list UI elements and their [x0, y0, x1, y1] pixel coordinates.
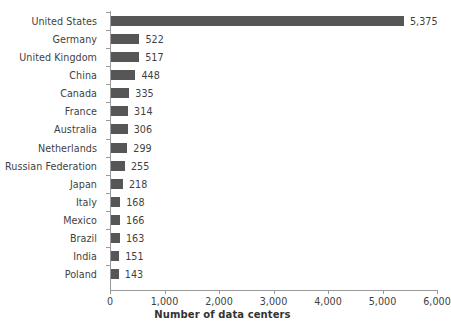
plot-area: United States5,375Germany522United Kingd…	[0, 0, 445, 300]
bar-row: China448	[0, 66, 445, 84]
category-label: Germany	[53, 33, 97, 44]
bar	[111, 215, 120, 225]
category-label: Russian Federation	[5, 160, 97, 171]
bar-value-label: 218	[129, 178, 147, 189]
x-axis-tick	[383, 290, 384, 294]
bar	[111, 251, 119, 261]
y-axis-tick	[106, 66, 110, 67]
bar	[111, 269, 119, 279]
bar	[111, 106, 128, 116]
bar-value-label: 168	[126, 196, 144, 207]
x-axis-tick	[165, 290, 166, 294]
bar	[111, 52, 139, 62]
bar-value-label: 151	[125, 251, 143, 262]
category-label: Japan	[70, 178, 97, 189]
bar	[111, 16, 404, 26]
bar	[111, 143, 127, 153]
bar-row: Netherlands299	[0, 139, 445, 157]
y-axis-tick	[106, 30, 110, 31]
bar	[111, 124, 128, 134]
bar-row: Canada335	[0, 84, 445, 102]
bar-row: Japan218	[0, 175, 445, 193]
bar-value-label: 299	[133, 142, 151, 153]
x-axis-tick	[328, 290, 329, 294]
bar	[111, 88, 129, 98]
bar-row: Russian Federation255	[0, 157, 445, 175]
y-axis-tick	[106, 84, 110, 85]
category-label: Poland	[65, 269, 97, 280]
y-axis-tick	[106, 229, 110, 230]
bar-row: Poland143	[0, 265, 445, 283]
bar-row: Italy168	[0, 193, 445, 211]
x-axis-tick	[219, 290, 220, 294]
x-axis-tick	[274, 290, 275, 294]
x-axis-tick	[437, 290, 438, 294]
bar-value-label: 5,375	[410, 15, 438, 26]
category-label: Canada	[60, 88, 97, 99]
y-axis-tick	[106, 102, 110, 103]
y-axis-tick	[106, 12, 110, 13]
bar-row: Mexico166	[0, 211, 445, 229]
y-axis-tick	[106, 120, 110, 121]
x-axis-tick-label: 5,000	[369, 296, 397, 307]
category-label: Mexico	[63, 214, 97, 225]
bar-value-label: 163	[126, 233, 144, 244]
y-axis-tick	[106, 247, 110, 248]
y-axis-tick	[106, 175, 110, 176]
category-label: Italy	[76, 196, 97, 207]
bar	[111, 197, 120, 207]
category-label: India	[73, 251, 97, 262]
bar-value-label: 314	[134, 106, 152, 117]
y-axis-tick	[106, 211, 110, 212]
category-label: Brazil	[70, 233, 97, 244]
category-label: United States	[31, 15, 97, 26]
bar-row: India151	[0, 247, 445, 265]
bar-value-label: 143	[125, 269, 143, 280]
category-label: China	[69, 70, 97, 81]
x-axis-tick-label: 1,000	[151, 296, 179, 307]
category-label: France	[65, 106, 97, 117]
bar-row: Brazil163	[0, 229, 445, 247]
x-axis-tick-label: 2,000	[205, 296, 233, 307]
bar	[111, 70, 135, 80]
y-axis-tick	[106, 193, 110, 194]
bar-row: United States5,375	[0, 12, 445, 30]
y-axis-tick	[106, 139, 110, 140]
x-axis-tick	[110, 290, 111, 294]
x-axis-tick-label: 4,000	[314, 296, 342, 307]
category-label: United Kingdom	[19, 52, 97, 63]
y-axis-tick	[106, 265, 110, 266]
bar-value-label: 306	[134, 124, 152, 135]
x-axis-tick-label: 3,000	[260, 296, 288, 307]
bar-value-label: 517	[145, 52, 163, 63]
bar-row: United Kingdom517	[0, 48, 445, 66]
x-axis-title: Number of data centers	[0, 309, 445, 320]
bar	[111, 179, 123, 189]
bar-row: Germany522	[0, 30, 445, 48]
category-label: Australia	[54, 124, 97, 135]
x-axis-tick-label: 0	[107, 296, 113, 307]
bar-value-label: 255	[131, 160, 149, 171]
y-axis-tick	[106, 157, 110, 158]
bar-value-label: 522	[145, 33, 163, 44]
bar-value-label: 448	[141, 70, 159, 81]
bar	[111, 161, 125, 171]
bar-value-label: 335	[135, 88, 153, 99]
category-label: Netherlands	[38, 142, 97, 153]
bar-value-label: 166	[126, 214, 144, 225]
bar-row: Australia306	[0, 120, 445, 138]
x-axis-tick-label: 6,000	[423, 296, 451, 307]
bar	[111, 34, 139, 44]
bar	[111, 233, 120, 243]
y-axis-tick	[106, 48, 110, 49]
bar-row: France314	[0, 102, 445, 120]
